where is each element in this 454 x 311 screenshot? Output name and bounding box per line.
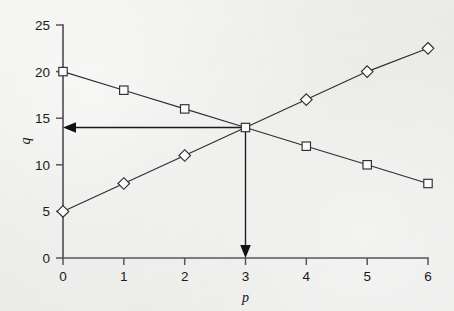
equilibrium-annotations bbox=[63, 122, 251, 258]
equilibrium-price-arrowhead bbox=[240, 245, 251, 258]
demand-marker-0 bbox=[59, 67, 67, 75]
demand-marker-5 bbox=[363, 161, 371, 169]
supply-marker-6 bbox=[422, 43, 434, 55]
chart-figure: 0 5 10 15 20 25 0 1 2 3 4 5 6 p q bbox=[0, 0, 454, 311]
y-axis-tick-labels: 0 5 10 15 20 25 bbox=[35, 18, 50, 266]
equilibrium-quantity-arrowhead bbox=[63, 122, 76, 133]
x-tick-label-4: 4 bbox=[303, 269, 311, 284]
demand-marker-2 bbox=[181, 105, 189, 113]
y-tick-label-25: 25 bbox=[35, 18, 50, 33]
demand-marker-1 bbox=[120, 86, 128, 94]
equilibrium-point-marker bbox=[241, 123, 249, 131]
y-tick-label-5: 5 bbox=[42, 204, 50, 219]
x-tick-label-6: 6 bbox=[424, 269, 432, 284]
y-tick-label-20: 20 bbox=[35, 65, 50, 80]
y-axis-ticks bbox=[56, 25, 63, 258]
demand-marker-4 bbox=[302, 142, 310, 150]
demand-marker-6 bbox=[424, 179, 432, 187]
y-tick-label-0: 0 bbox=[42, 251, 50, 266]
supply-marker-1 bbox=[118, 178, 130, 190]
supply-marker-5 bbox=[361, 66, 373, 78]
x-axis-tick-labels: 0 1 2 3 4 5 6 bbox=[59, 269, 432, 284]
x-axis-ticks bbox=[63, 258, 428, 265]
x-axis-title: p bbox=[241, 290, 249, 305]
y-tick-label-15: 15 bbox=[35, 111, 50, 126]
supply-marker-2 bbox=[179, 150, 191, 162]
y-axis-title: q bbox=[18, 138, 33, 145]
x-tick-label-0: 0 bbox=[59, 269, 67, 284]
supply-demand-line-chart: 0 5 10 15 20 25 0 1 2 3 4 5 6 p q bbox=[0, 0, 454, 311]
x-tick-label-3: 3 bbox=[242, 269, 250, 284]
x-tick-label-5: 5 bbox=[363, 269, 371, 284]
supply-marker-0 bbox=[57, 206, 69, 218]
supply-marker-4 bbox=[301, 94, 313, 106]
x-tick-label-2: 2 bbox=[181, 269, 189, 284]
x-tick-label-1: 1 bbox=[120, 269, 128, 284]
y-tick-label-10: 10 bbox=[35, 158, 50, 173]
